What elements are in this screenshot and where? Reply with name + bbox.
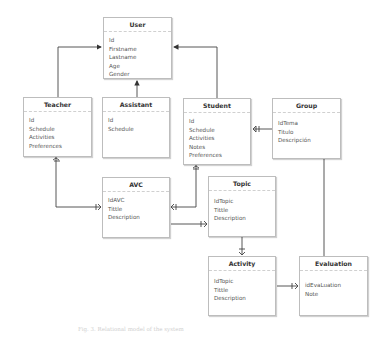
field: Schedule (189, 126, 250, 135)
field: Id (189, 117, 250, 126)
entity-activity: Activity IdTopic Tittle Description (208, 256, 276, 316)
entity-title: Topic (209, 177, 275, 191)
field: Gender (109, 70, 171, 79)
field: Activities (29, 133, 91, 142)
field: IdAVC (108, 196, 169, 205)
field: Preferences (29, 142, 91, 151)
entity-group: Group IdTema Titulo Descripción (272, 98, 341, 159)
field: Description (214, 214, 275, 223)
field: Description (108, 213, 169, 222)
entity-title: Group (273, 99, 340, 113)
field: Descripción (278, 136, 340, 145)
field: Note (305, 290, 367, 299)
field: Id (108, 116, 169, 125)
entity-title: Assistant (103, 98, 169, 112)
field: Firstname (109, 45, 171, 54)
er-diagram: User Id Firstname Lastname Age Gender Te… (0, 0, 387, 337)
entity-teacher: Teacher Id Schedule Activities Preferenc… (23, 97, 92, 157)
field: Titulo (278, 128, 340, 137)
figure-caption: Fig. 3. Relational model of the system (78, 326, 184, 332)
field: IdTopic (214, 197, 275, 206)
field: Age (109, 62, 171, 71)
field: idEvaLuation (305, 281, 367, 290)
field: Notes (189, 143, 250, 152)
entity-student: Student Id Schedule Activities Notes Pre… (183, 98, 251, 165)
entity-evaluation: Evaluation idEvaLuation Note (299, 256, 368, 316)
field: Schedule (108, 125, 169, 134)
field: Tittle (108, 205, 169, 214)
entity-title: Teacher (24, 98, 91, 112)
entity-title: Student (184, 99, 250, 113)
field: Id (109, 36, 171, 45)
field: Schedule (29, 125, 91, 134)
entity-user: User Id Firstname Lastname Age Gender (103, 17, 172, 79)
field: Lastname (109, 53, 171, 62)
entity-topic: Topic IdTopic Tittle Description (208, 176, 276, 237)
entity-title: AVC (103, 178, 169, 192)
field: Tittle (214, 206, 275, 215)
field: Activities (189, 134, 250, 143)
field: Tittle (214, 286, 275, 295)
entity-title: User (104, 18, 171, 32)
entity-title: Evaluation (300, 257, 367, 271)
field: Description (214, 294, 275, 303)
entity-title: Activity (209, 257, 275, 271)
entity-assistant: Assistant Id Schedule (102, 97, 170, 158)
field: Preferences (189, 151, 250, 160)
field: Id (29, 116, 91, 125)
field: IdTema (278, 119, 340, 128)
field: IdTopic (214, 277, 275, 286)
entity-avc: AVC IdAVC Tittle Description (102, 177, 170, 238)
